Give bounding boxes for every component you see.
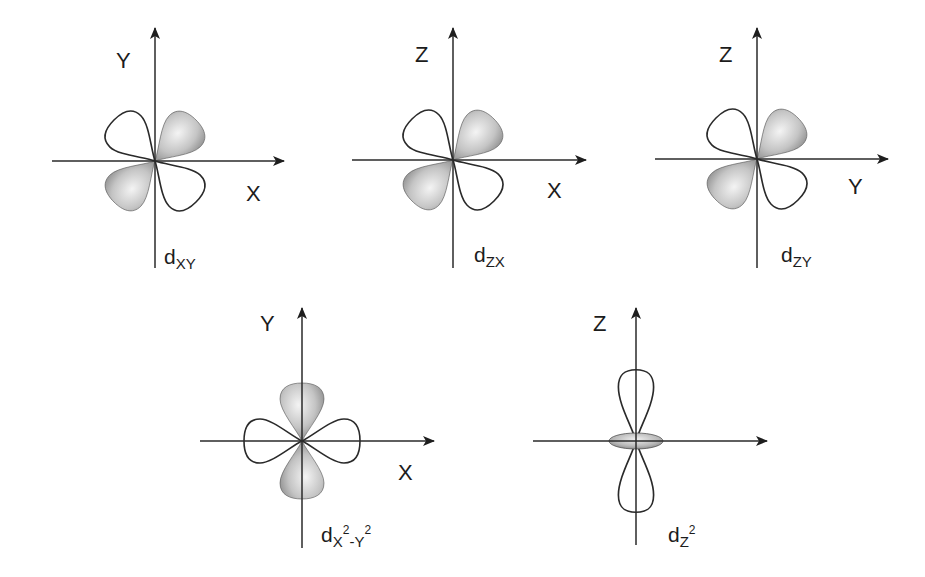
axis-label-z: Z — [719, 44, 732, 66]
axis-label-z: Z — [415, 44, 428, 66]
orbital-label-dzy: dZY — [781, 244, 812, 269]
axis-label-y: Y — [260, 313, 275, 335]
orbital-label-dzx: dZX — [474, 244, 505, 269]
axis-label-x: X — [547, 180, 562, 202]
diagram-dx2-y2 — [200, 308, 434, 548]
axis-label-y: Y — [848, 176, 863, 198]
diagram-dxy — [52, 28, 284, 268]
axis-label-x: X — [398, 462, 413, 484]
orbital-label-dz2: dZ2 — [668, 524, 696, 545]
axis-label-y: Y — [116, 50, 131, 72]
axis-label-z: Z — [593, 313, 606, 335]
orbitals-figure — [0, 0, 925, 577]
diagram-dzx — [352, 28, 586, 268]
diagram-dzy — [655, 28, 888, 268]
orbital-label-dx2-y2: dX2-Y2 — [321, 524, 371, 545]
axis-label-x: X — [246, 183, 261, 205]
orbital-label-dxy: dXY — [164, 246, 196, 271]
diagram-dz2 — [533, 308, 767, 545]
